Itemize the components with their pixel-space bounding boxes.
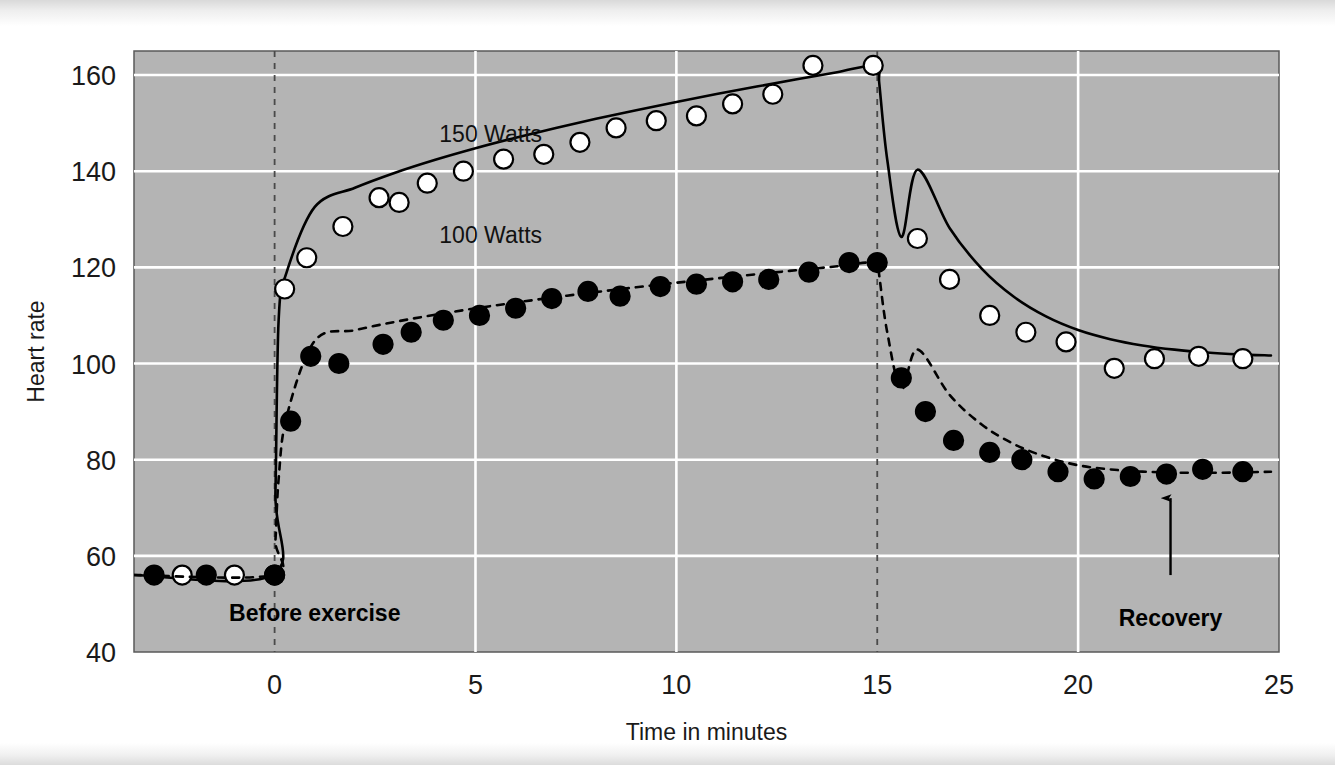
x-tick-label: 20 [1063, 670, 1093, 700]
data-point [611, 287, 630, 306]
data-point [374, 335, 393, 354]
data-point [1121, 467, 1140, 486]
data-point [1145, 349, 1164, 368]
data-point [506, 299, 525, 318]
y-axis-ticks: 406080100120140160 [71, 61, 116, 668]
x-axis-title: Time in minutes [626, 719, 787, 745]
x-tick-label: 0 [267, 670, 282, 700]
data-point [840, 253, 859, 272]
y-tick-label: 60 [86, 542, 116, 572]
data-point [864, 56, 883, 75]
data-point [607, 118, 626, 137]
data-point [281, 412, 300, 431]
data-point [687, 275, 706, 294]
y-axis-title: Heart rate [23, 300, 49, 402]
data-point [980, 443, 999, 462]
data-point [723, 272, 742, 291]
heart-rate-chart: 406080100120140160 0510152025 Heart rate… [0, 0, 1335, 765]
data-point [723, 94, 742, 113]
data-point [418, 174, 437, 193]
y-tick-label: 120 [71, 253, 116, 283]
annotation-recovery: Recovery [1119, 605, 1223, 631]
data-point [1049, 462, 1068, 481]
x-tick-label: 5 [468, 670, 483, 700]
data-point [944, 431, 963, 450]
y-tick-label: 160 [71, 61, 116, 91]
y-tick-label: 100 [71, 350, 116, 380]
data-point [1105, 359, 1124, 378]
data-point [534, 145, 553, 164]
series-label-150-watts: 150 Watts [439, 121, 542, 147]
y-tick-label: 80 [86, 446, 116, 476]
data-point [329, 354, 348, 373]
annotation-before-exercise: Before exercise [229, 600, 400, 626]
series-label-100-watts: 100 Watts [439, 222, 542, 248]
data-point [402, 323, 421, 342]
data-point [647, 111, 666, 130]
data-point [1085, 469, 1104, 488]
data-point [173, 566, 192, 585]
y-tick-label: 40 [86, 638, 116, 668]
data-point [803, 56, 822, 75]
data-point [390, 193, 409, 212]
data-point [868, 253, 887, 272]
data-point [916, 402, 935, 421]
data-point [265, 566, 284, 585]
x-tick-label: 25 [1264, 670, 1294, 700]
data-point [799, 263, 818, 282]
data-point [908, 229, 927, 248]
data-point [494, 150, 513, 169]
data-point [370, 188, 389, 207]
data-point [651, 277, 670, 296]
data-point [225, 566, 244, 585]
data-point [1189, 347, 1208, 366]
data-point [275, 280, 294, 299]
data-point [297, 248, 316, 267]
x-tick-label: 10 [661, 670, 691, 700]
data-point [1016, 323, 1035, 342]
data-point [570, 133, 589, 152]
data-point [1057, 332, 1076, 351]
data-point [578, 282, 597, 301]
data-point [687, 106, 706, 125]
data-point [1012, 450, 1031, 469]
data-point [434, 311, 453, 330]
data-point [940, 270, 959, 289]
data-point [1193, 460, 1212, 479]
data-point [763, 85, 782, 104]
data-point [454, 162, 473, 181]
data-point [980, 306, 999, 325]
data-point [470, 306, 489, 325]
data-point [892, 368, 911, 387]
data-point [197, 566, 216, 585]
data-point [1233, 349, 1252, 368]
data-point [759, 270, 778, 289]
x-axis-ticks: 0510152025 [267, 670, 1294, 700]
figure-container: 406080100120140160 0510152025 Heart rate… [0, 0, 1335, 765]
y-tick-label: 140 [71, 157, 116, 187]
data-point [333, 217, 352, 236]
data-point [145, 566, 164, 585]
data-point [1157, 465, 1176, 484]
data-point [301, 347, 320, 366]
x-tick-label: 15 [862, 670, 892, 700]
data-point [542, 289, 561, 308]
data-point [1233, 462, 1252, 481]
